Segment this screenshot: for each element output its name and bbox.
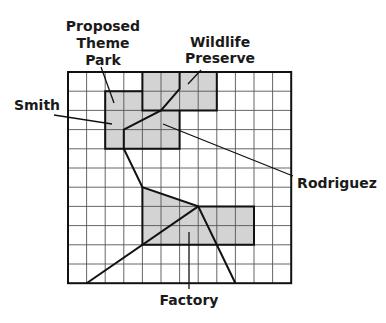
theme-park-label-line1: Proposed: [66, 18, 140, 34]
smith-label: Smith: [14, 97, 60, 113]
theme-park-label-line2: Theme: [76, 35, 129, 51]
wildlife-label-line2: Preserve: [185, 50, 255, 66]
property-map-diagram: Proposed Theme Park Wildlife Preserve Sm…: [0, 0, 386, 323]
grid: [68, 72, 291, 283]
wildlife-label-line1: Wildlife: [190, 34, 250, 50]
factory-label: Factory: [160, 292, 219, 308]
rodriguez-label: Rodriguez: [297, 175, 377, 191]
theme-park-label-line3: Park: [85, 52, 121, 68]
smith-leader: [54, 115, 112, 124]
